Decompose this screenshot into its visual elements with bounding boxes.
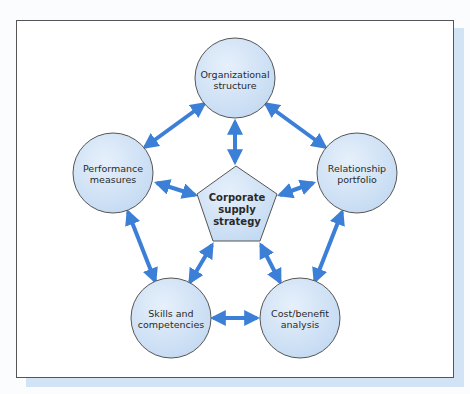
node-cost-benefit-analysis: Cost/benefit analysis: [260, 278, 340, 358]
svg-text:measures: measures: [90, 174, 136, 185]
svg-text:Relationship: Relationship: [328, 163, 386, 174]
svg-text:Skills and: Skills and: [148, 308, 193, 319]
svg-text:Performance: Performance: [83, 163, 143, 174]
svg-text:supply: supply: [218, 204, 256, 215]
svg-text:structure: structure: [213, 80, 256, 91]
node-relationship-portfolio: Relationship portfolio: [317, 133, 397, 213]
arrow-org-rel: [266, 104, 325, 147]
node-skills-and-competencies: Skills and competencies: [131, 278, 211, 358]
arrow-org-perf: [145, 104, 204, 147]
arrow-perf-skills: [128, 212, 155, 281]
arrow-rel-cost: [315, 212, 342, 281]
svg-text:Organizational: Organizational: [200, 69, 269, 80]
svg-text:strategy: strategy: [213, 216, 261, 227]
arrow-center-cost: [261, 245, 280, 282]
svg-text:competencies: competencies: [138, 319, 204, 330]
node-organizational-structure: Organizational structure: [195, 38, 275, 118]
center-node-corporate-supply-strategy: Corporate supply strategy: [197, 166, 277, 241]
arrow-center-rel: [280, 183, 313, 195]
arrow-center-skills: [190, 245, 212, 282]
supply-strategy-diagram: Corporate supply strategy Organizational…: [0, 0, 470, 394]
node-performance-measures: Performance measures: [73, 133, 153, 213]
svg-text:portfolio: portfolio: [337, 174, 377, 185]
svg-text:Cost/benefit: Cost/benefit: [271, 308, 329, 319]
svg-text:Corporate: Corporate: [209, 192, 266, 203]
arrow-center-perf: [157, 183, 195, 195]
svg-text:analysis: analysis: [281, 319, 320, 330]
